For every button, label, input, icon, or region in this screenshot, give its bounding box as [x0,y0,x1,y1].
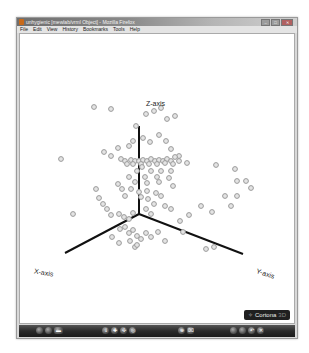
prev-viewpoint-icon[interactable] [230,327,237,334]
data-point [137,190,142,195]
data-point [139,237,144,242]
data-point [164,139,169,144]
data-point [173,155,178,160]
menu-file[interactable]: File [20,26,28,33]
data-point [177,159,182,164]
title-bar: unhygienic [mewlab/vrml Object] - Mozill… [17,18,297,26]
data-point [123,194,128,199]
browser-window: unhygienic [mewlab/vrml Object] - Mozill… [16,17,298,339]
data-point [147,162,152,167]
nav-back-button[interactable] [36,327,43,334]
maximize-button[interactable]: □ [271,19,280,26]
data-point [159,169,164,174]
nav-forward-button[interactable] [45,327,52,334]
data-point [223,194,228,199]
menu-help[interactable]: Help [130,26,140,33]
data-point [144,207,149,212]
walk-icon[interactable]: ⇓ [102,327,109,334]
data-point [171,162,176,167]
menu-history[interactable]: History [62,26,78,33]
data-point [101,202,106,207]
data-point [214,163,219,168]
menu-bar: File Edit View History Bookmarks Tools H… [17,26,297,33]
data-point [120,187,125,192]
data-point [117,212,122,217]
restore-icon[interactable]: ✕ [257,327,264,334]
data-point [145,189,150,194]
data-point [178,219,183,224]
data-point [149,212,154,217]
data-point [131,211,136,216]
cortona-label: Cortona [255,310,276,320]
data-point [94,187,99,192]
data-point [185,161,190,166]
data-point [127,144,132,149]
data-point [129,187,134,192]
close-button[interactable]: ✕ [281,19,293,26]
data-point [157,133,162,138]
data-point [152,109,157,114]
data-point [109,154,114,159]
minimize-button[interactable]: – [261,19,270,26]
plan-icon[interactable]: ✚ [111,327,118,334]
next-viewpoint-icon[interactable] [239,327,246,334]
data-point [167,176,172,181]
data-point [148,140,153,145]
data-point [169,207,174,212]
data-point [102,150,107,155]
align-icon[interactable]: ⌧ [187,327,194,334]
study-icon[interactable]: ✣ [120,327,127,334]
axes [65,126,243,254]
data-point [109,213,114,218]
fit-icon[interactable]: ⊕ [178,327,185,334]
window-title: unhygienic [mewlab/vrml Object] - Mozill… [26,18,135,26]
data-point [59,157,64,162]
data-points [59,105,254,252]
window-controls: – □ ✕ [261,19,293,26]
data-point [229,204,234,209]
data-point [187,213,192,218]
menu-tools[interactable]: Tools [113,26,125,33]
data-point [181,230,186,235]
data-point [149,235,154,240]
menu-bookmarks[interactable]: Bookmarks [83,26,108,33]
data-point [118,227,123,232]
data-point [92,105,97,110]
data-point [212,245,217,250]
data-point [134,124,139,129]
data-point [122,215,127,220]
data-point [155,162,160,167]
cortona-badge[interactable]: ✧ Cortona 3D [244,310,290,320]
data-point [128,239,133,244]
data-point [145,181,150,186]
data-point [173,114,178,119]
data-point [171,184,176,189]
cortona-toolbar: ▬ ⇓ ✚ ✣ ◎ ⊕ ⌧ ↶ ✕ [19,325,295,337]
data-point [127,175,132,180]
fly-icon[interactable]: ◎ [129,327,136,334]
data-point [163,204,168,209]
data-point [235,194,240,199]
data-point [131,228,136,233]
menu-edit[interactable]: Edit [33,26,42,33]
data-point [105,207,110,212]
data-point [135,169,140,174]
data-point [154,191,159,196]
data-point [135,243,140,248]
menu-view[interactable]: View [47,26,58,33]
data-point [159,194,164,199]
firefox-icon [19,19,24,25]
data-point [233,167,238,172]
view-button[interactable]: ▬ [54,327,63,334]
scatter-3d-scene[interactable] [20,34,294,324]
data-point [249,186,254,191]
vrml-viewport[interactable]: Z-axis X-axis Y-axis ✧ Cortona 3D [19,33,295,324]
data-point [71,212,76,217]
data-point [169,169,174,174]
data-point [133,180,138,185]
data-point [165,117,170,122]
data-point [235,179,240,184]
data-point [210,210,215,215]
undo-icon[interactable]: ↶ [248,327,255,334]
z-axis-label: Z-axis [146,100,165,107]
